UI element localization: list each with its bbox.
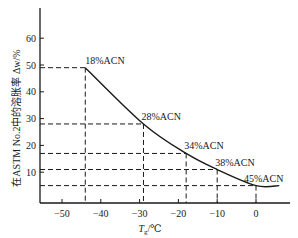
chart: 102030405060−50−40−30−20−10018%ACN28%ACN… [0,0,298,238]
y-tick-label: 60 [26,33,36,44]
point-label: 34%ACN [184,140,223,151]
y-tick-label: 30 [26,113,36,124]
y-axis-title: 在ASTM No.2中的溶胀率 Δw/% [10,49,22,186]
data-curve [85,68,279,187]
point-label: 18%ACN [85,55,124,66]
y-tick-label: 20 [26,140,36,151]
x-tick-label: 0 [254,208,259,219]
x-tick-label: −20 [171,208,187,219]
y-tick-label: 50 [26,60,36,71]
point-label: 45%ACN [244,173,283,184]
point-label: 28%ACN [141,111,180,122]
y-tick-label: 40 [26,86,36,97]
y-tick-label: 10 [26,167,36,178]
x-tick-label: −10 [209,208,225,219]
x-tick-label: −50 [54,208,70,219]
x-axis-title: Tg/℃ [138,223,161,236]
x-tick-label: −40 [93,208,109,219]
x-tick-label: −30 [132,208,148,219]
point-label: 38%ACN [215,157,254,168]
